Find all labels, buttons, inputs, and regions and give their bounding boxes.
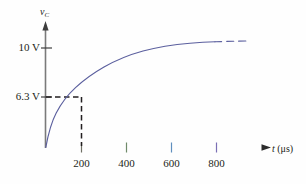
y-axis-arrowhead (42, 21, 48, 31)
x-axis-label-units: (μs) (277, 143, 293, 154)
y-tick-label-10v: 10 V (2, 42, 40, 53)
x-tick-label-600: 600 (157, 158, 187, 169)
charging-curve-dashed-tail (215, 41, 248, 42)
x-tick-label-200: 200 (67, 158, 97, 169)
y-axis-label: vC (40, 7, 49, 17)
y-tick-label-6p3v: 6.3 V (0, 91, 40, 102)
y-axis-label-subscript: C (44, 11, 49, 19)
charging-curve-solid (46, 42, 215, 148)
time-constant-guides (46, 97, 82, 146)
x-axis (46, 143, 272, 153)
x-axis-label-symbol: t (272, 143, 275, 154)
x-tick-label-400: 400 (112, 158, 142, 169)
x-axis-label: t (μs) (272, 144, 293, 154)
x-tick-label-800: 800 (202, 158, 232, 169)
x-axis-arrowhead (262, 144, 272, 150)
capacitor-charging-figure: vC t (μs) 10 V 6.3 V 200 400 600 800 (0, 0, 306, 184)
plot-canvas (0, 0, 306, 184)
charging-curve (46, 41, 248, 147)
